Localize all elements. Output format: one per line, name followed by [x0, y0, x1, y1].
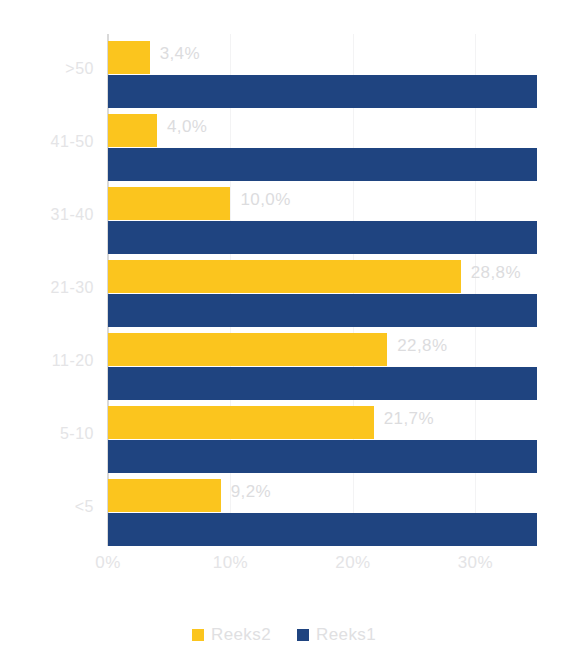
bar-value-label: 9,2% [231, 482, 271, 502]
bar-reeks2 [108, 114, 157, 147]
bar-reeks1 [108, 148, 537, 181]
legend-item[interactable]: Reeks2 [192, 625, 271, 645]
bar-reeks2 [108, 41, 150, 74]
y-axis-tick-31-40: 31-40 [2, 206, 94, 224]
bar-group: 21,7% [108, 406, 544, 472]
bar-reeks2 [108, 187, 230, 220]
legend-swatch-reeks1 [297, 629, 309, 641]
bar-group: 4,0% [108, 114, 544, 180]
x-axis-tick-10%: 10% [213, 553, 249, 573]
x-axis-tick-0%: 0% [95, 553, 121, 573]
legend-label: Reeks1 [316, 625, 376, 645]
bar-group: 9,2% [108, 479, 544, 545]
bar-reeks1 [108, 294, 537, 327]
x-axis-tick-20%: 20% [335, 553, 371, 573]
chart-legend: Reeks2Reeks1 [0, 625, 568, 645]
bar-value-label: 28,8% [471, 263, 521, 283]
bar-value-label: 22,8% [397, 336, 447, 356]
y-axis-tick-labels: >5041-5031-4021-3011-205-10<5 [0, 34, 94, 545]
bar-value-label: 21,7% [384, 409, 434, 429]
plot-area: 3,4%4,0%10,0%28,8%22,8%21,7%9,2% [108, 34, 544, 545]
bar-chart: >5041-5031-4021-3011-205-10<5 3,4%4,0%10… [0, 0, 568, 668]
y-axis-tick-11-20: 11-20 [2, 352, 94, 370]
bar-reeks2 [108, 406, 374, 439]
legend-label: Reeks2 [211, 625, 271, 645]
bar-reeks1 [108, 221, 537, 254]
bar-reeks1 [108, 75, 537, 108]
legend-swatch-reeks2 [192, 629, 204, 641]
bar-value-label: 4,0% [167, 117, 207, 137]
y-axis-tick-21-30: 21-30 [2, 279, 94, 297]
y-axis-tick-41-50: 41-50 [2, 133, 94, 151]
bar-reeks1 [108, 440, 537, 473]
y-axis-tick->50: >50 [2, 60, 94, 78]
x-axis-tick-labels: 0%10%20%30% [108, 553, 544, 579]
bar-value-label: 10,0% [240, 190, 290, 210]
bar-group: 3,4% [108, 41, 544, 107]
bar-reeks2 [108, 333, 387, 366]
bar-reeks1 [108, 513, 537, 546]
bar-reeks1 [108, 367, 537, 400]
bar-reeks2 [108, 260, 461, 293]
bar-group: 10,0% [108, 187, 544, 253]
x-axis-tick-30%: 30% [458, 553, 494, 573]
bar-group: 28,8% [108, 260, 544, 326]
y-axis-tick-5-10: 5-10 [2, 425, 94, 443]
legend-item[interactable]: Reeks1 [297, 625, 376, 645]
bar-reeks2 [108, 479, 221, 512]
y-axis-tick-<5: <5 [2, 498, 94, 516]
bar-value-label: 3,4% [160, 44, 200, 64]
bar-group: 22,8% [108, 333, 544, 399]
